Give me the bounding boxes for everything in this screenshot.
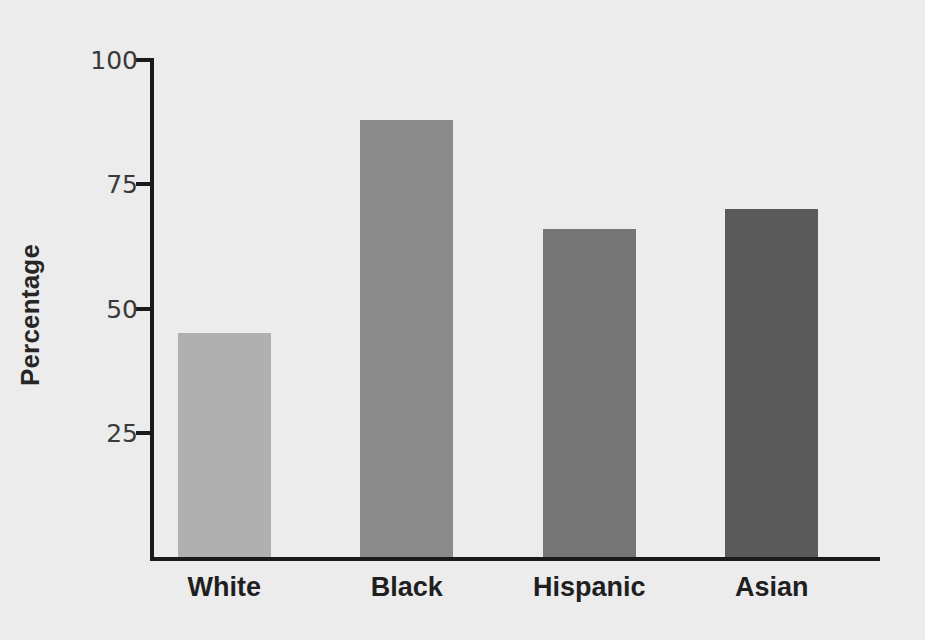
x-tick-label-hispanic: Hispanic (533, 572, 646, 603)
y-tick-label: 75 (106, 170, 138, 199)
y-tick-label: 50 (106, 294, 138, 323)
plot-area: 255075100 WhiteBlackHispanicAsian (150, 60, 880, 557)
bar-chart: Percentage 255075100 WhiteBlackHispanicA… (0, 0, 925, 640)
x-axis-spine (150, 557, 880, 561)
y-tick-mark (136, 58, 154, 62)
x-tick-label-asian: Asian (735, 572, 809, 603)
bar-white (178, 333, 271, 557)
y-tick-mark (136, 307, 154, 311)
bar-black (360, 120, 453, 557)
y-axis-title: Percentage (0, 0, 60, 640)
x-tick-label-black: Black (371, 572, 443, 603)
y-tick-label: 100 (90, 46, 138, 75)
bar-hispanic (543, 229, 636, 557)
y-tick-mark (136, 431, 154, 435)
bar-asian (725, 209, 818, 557)
y-tick-label: 25 (106, 418, 138, 447)
x-tick-label-white: White (188, 572, 262, 603)
y-tick-mark (136, 182, 154, 186)
